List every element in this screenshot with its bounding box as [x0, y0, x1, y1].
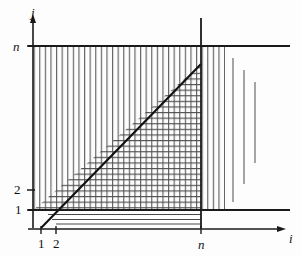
x-axis-label: i [289, 232, 293, 245]
x-tick-label-2: 2 [53, 237, 60, 250]
lower-strip-hatch [48, 215, 201, 225]
x-tick-label-n: n [198, 238, 205, 251]
math-figure: j i n 2 1 1 2 n [0, 0, 301, 256]
y-tick-label-2: 2 [14, 183, 21, 196]
i-axis-arrowhead [277, 226, 286, 232]
i-axis [28, 226, 286, 232]
y-tick-label-n: n [13, 40, 20, 53]
continuation-strokes [233, 58, 255, 202]
y-axis-label: j [31, 6, 35, 19]
x-tick-label-1: 1 [38, 237, 45, 250]
figure-canvas [0, 0, 301, 256]
y-tick-label-1: 1 [15, 203, 22, 216]
